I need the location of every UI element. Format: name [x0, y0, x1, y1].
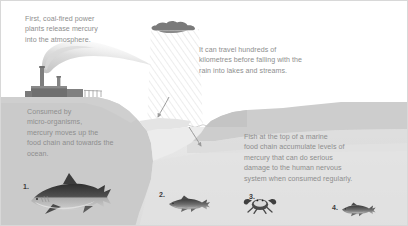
mercury-infographic: First, coal-fired power plants release m… — [0, 0, 408, 226]
caption-consumed: Consumed by micro-organisms, mercury mov… — [27, 107, 149, 159]
creature-label-3: 3. — [249, 193, 255, 200]
caption-fish: Fish at the top of a marine food chain a… — [244, 132, 396, 184]
rain-curtain — [147, 29, 203, 127]
caption-travel: It can travel hundreds of kilometres bef… — [199, 45, 351, 76]
creature-label-4: 4. — [332, 204, 338, 211]
creature-label-1: 1. — [23, 183, 29, 190]
caption-emission: First, coal-fired power plants release m… — [25, 14, 145, 45]
creature-label-2: 2. — [159, 191, 165, 198]
